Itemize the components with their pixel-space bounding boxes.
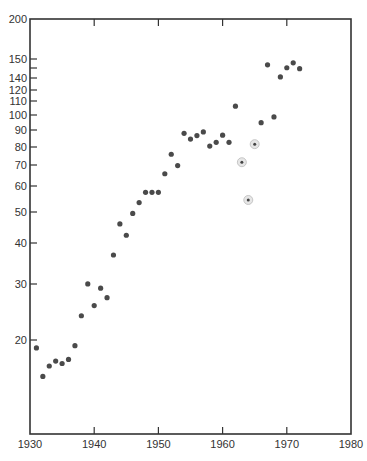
- data-point: [66, 357, 71, 362]
- y-tick-label: 50: [15, 206, 27, 218]
- data-point: [259, 120, 264, 125]
- data-point: [60, 361, 65, 366]
- y-tick-label: 60: [15, 180, 27, 192]
- data-point: [271, 114, 276, 119]
- y-tick-label: 30: [15, 278, 27, 290]
- data-point: [156, 190, 161, 195]
- data-point: [137, 200, 142, 205]
- data-point: [34, 345, 39, 350]
- data-point: [214, 140, 219, 145]
- data-point: [72, 343, 77, 348]
- data-point: [253, 143, 256, 146]
- y-tick-label: 110: [9, 95, 27, 107]
- x-tick-label: 1940: [82, 438, 106, 450]
- data-points: [34, 60, 302, 379]
- data-point: [149, 190, 154, 195]
- scatter-chart: 2001501401201101009080706050403020 19301…: [0, 0, 367, 461]
- data-point: [188, 137, 193, 142]
- data-point: [233, 104, 238, 109]
- data-point: [47, 363, 52, 368]
- data-point: [130, 211, 135, 216]
- data-point: [162, 171, 167, 176]
- y-tick-label: 140: [9, 72, 27, 84]
- data-point: [240, 161, 243, 164]
- y-tick-label: 200: [9, 13, 27, 25]
- x-tick-label: 1960: [210, 438, 234, 450]
- data-point: [169, 152, 174, 157]
- y-tick-label: 20: [15, 334, 27, 346]
- data-point: [124, 233, 129, 238]
- data-point: [143, 190, 148, 195]
- data-point: [98, 286, 103, 291]
- data-point: [104, 295, 109, 300]
- data-point: [226, 140, 231, 145]
- data-point: [40, 374, 45, 379]
- x-tick-label: 1950: [146, 438, 170, 450]
- y-tick-label: 100: [9, 109, 27, 121]
- data-point: [111, 252, 116, 257]
- data-point: [265, 62, 270, 67]
- y-tick-label: 150: [9, 53, 27, 65]
- data-point: [291, 60, 296, 65]
- data-point: [278, 74, 283, 79]
- data-point: [284, 65, 289, 70]
- data-point: [220, 133, 225, 138]
- data-point: [247, 198, 250, 201]
- x-tick-label: 1930: [18, 438, 42, 450]
- data-point: [207, 143, 212, 148]
- x-tick-label: 1980: [339, 438, 363, 450]
- y-tick-label: 70: [15, 159, 27, 171]
- y-tick-label: 40: [15, 237, 27, 249]
- data-point: [53, 358, 58, 363]
- y-tick-label: 90: [15, 124, 27, 136]
- x-axis: 193019401950196019701980: [18, 19, 363, 450]
- y-tick-label: 80: [15, 141, 27, 153]
- data-point: [85, 281, 90, 286]
- data-point: [181, 131, 186, 136]
- data-point: [297, 66, 302, 71]
- y-axis: 2001501401201101009080706050403020: [9, 13, 37, 346]
- data-point: [175, 163, 180, 168]
- data-point: [194, 133, 199, 138]
- x-tick-label: 1970: [275, 438, 299, 450]
- data-point: [79, 313, 84, 318]
- data-point: [92, 303, 97, 308]
- plot-frame: [30, 19, 351, 434]
- data-point: [117, 221, 122, 226]
- data-point: [201, 129, 206, 134]
